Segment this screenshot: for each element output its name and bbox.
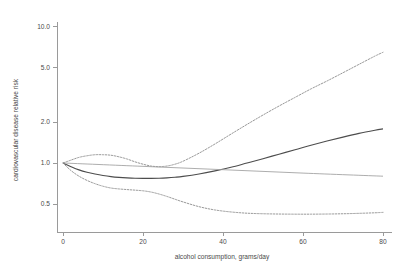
chart-container: 0.51.02.05.010.0 020406080 alcohol consu… <box>0 0 402 276</box>
y-tick-label: 10.0 <box>37 23 50 30</box>
x-tick-label: 0 <box>61 238 65 245</box>
y-tick-label: 2.0 <box>41 118 50 125</box>
y-tick-label: 5.0 <box>41 64 50 71</box>
y-tick-label: 0.5 <box>41 200 50 207</box>
relative-risk-line-chart: 0.51.02.05.010.0 020406080 alcohol consu… <box>0 0 402 276</box>
x-tick-label: 40 <box>219 238 227 245</box>
x-tick-label: 60 <box>299 238 307 245</box>
x-axis-title: alcohol consumption, grams/day <box>175 253 270 261</box>
y-tick-label: 1.0 <box>41 159 50 166</box>
plot-background <box>0 0 402 276</box>
x-tick-label: 20 <box>139 238 147 245</box>
y-axis-title: cardiovascular disease relative risk <box>12 78 19 181</box>
x-tick-label: 80 <box>379 238 387 245</box>
